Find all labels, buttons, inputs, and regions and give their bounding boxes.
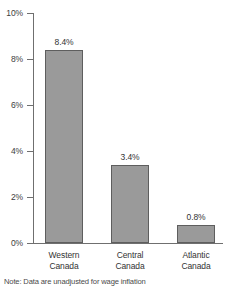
x-axis-label-western-canada: Western Canada — [34, 250, 94, 271]
bar-value-atlantic-canada: 0.8% — [172, 213, 220, 222]
y-axis-tick-label-4: 8% — [0, 55, 23, 64]
plot-area: 0% 2% 4% 6% 8% 10% 8.4% 3.4% 0.8% Wester… — [0, 0, 230, 252]
bar-central-canada[interactable] — [111, 165, 149, 243]
y-axis-tick-4 — [27, 59, 33, 60]
y-axis-line — [33, 13, 34, 244]
x-axis-label-atlantic-canada: Atlantic Canada — [166, 250, 226, 271]
y-axis-tick-2 — [27, 151, 33, 152]
y-axis-tick-3 — [27, 105, 33, 106]
x-axis-line — [27, 243, 223, 244]
x-axis-label-central-canada-line1: Central — [100, 250, 160, 261]
y-axis-tick-label-5: 10% — [0, 9, 23, 18]
x-axis-label-western-canada-line2: Canada — [34, 261, 94, 272]
y-axis-tick-5 — [27, 13, 33, 14]
y-axis-tick-label-0: 0% — [0, 239, 23, 248]
bar-value-central-canada: 3.4% — [106, 153, 154, 162]
x-axis-label-central-canada: Central Canada — [100, 250, 160, 271]
x-axis-label-central-canada-line2: Canada — [100, 261, 160, 272]
y-axis-tick-0 — [27, 243, 33, 244]
bar-atlantic-canada[interactable] — [177, 225, 215, 243]
chart-footnote: Note: Data are unadjusted for wage infla… — [4, 277, 228, 286]
x-axis-label-atlantic-canada-line1: Atlantic — [166, 250, 226, 261]
y-axis-tick-label-2: 4% — [0, 147, 23, 156]
bar-value-western-canada: 8.4% — [40, 38, 88, 47]
y-axis-tick-label-3: 6% — [0, 101, 23, 110]
y-axis-tick-label-1: 2% — [0, 193, 23, 202]
x-axis-label-atlantic-canada-line2: Canada — [166, 261, 226, 272]
x-axis-label-western-canada-line1: Western — [34, 250, 94, 261]
bar-western-canada[interactable] — [45, 50, 83, 243]
y-axis-tick-1 — [27, 197, 33, 198]
bar-chart-figure: 0% 2% 4% 6% 8% 10% 8.4% 3.4% 0.8% Wester… — [0, 0, 230, 286]
